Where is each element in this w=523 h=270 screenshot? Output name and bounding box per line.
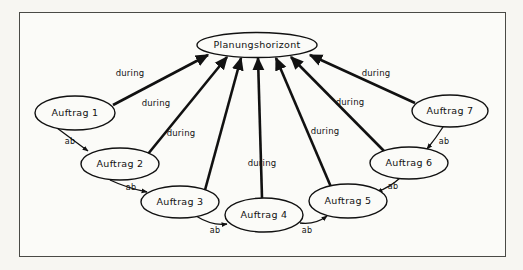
edge-label-during-7: during: [362, 69, 391, 78]
node-label-auftrag5: Auftrag 5: [325, 196, 372, 206]
edge-label-ab-4-5: ab: [302, 227, 312, 235]
scanned-figure-page: Planungshorizont Auftrag 1 Auftrag 2 Auf…: [0, 0, 523, 270]
edge-label-ab-7-6: ab: [439, 138, 449, 146]
node-label-auftrag7: Auftrag 7: [427, 106, 474, 116]
edge-label-ab-6-5: ab: [388, 183, 398, 191]
node-label-auftrag6: Auftrag 6: [386, 158, 433, 168]
edge-label-during-4: during: [248, 159, 277, 168]
edge-label-during-1: during: [116, 69, 145, 78]
edge-label-ab-3-4: ab: [210, 227, 220, 235]
node-label-planungshorizont: Planungshorizont: [214, 40, 301, 50]
node-label-auftrag3: Auftrag 3: [157, 197, 204, 207]
edge-label-during-5: during: [311, 127, 340, 136]
edge-label-during-6: during: [336, 98, 365, 107]
node-label-auftrag2: Auftrag 2: [97, 159, 144, 169]
edge-label-during-2: during: [142, 99, 171, 108]
node-label-auftrag4: Auftrag 4: [241, 210, 288, 220]
node-label-auftrag1: Auftrag 1: [52, 108, 99, 118]
edge-label-ab-1-2: ab: [65, 138, 75, 146]
edge-label-during-3: during: [167, 129, 196, 138]
edge-label-ab-2-3: ab: [126, 184, 136, 192]
